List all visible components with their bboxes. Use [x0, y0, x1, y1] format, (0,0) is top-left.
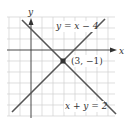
line-label-x-plus-y-equals-2: x + y = 2	[65, 101, 108, 111]
x-axis-label: x	[119, 46, 124, 56]
line-label-y-equals-x-minus-4: y = x − 4	[55, 21, 99, 31]
y-axis-label: y	[27, 7, 34, 17]
graph: x y (3, −1) y = x − 4 x + y = 2	[0, 0, 127, 127]
intersection-label: (3, −1)	[71, 56, 103, 66]
x-axis-arrow-icon	[110, 48, 117, 53]
y-axis-arrow-icon	[29, 18, 34, 25]
intersection-point	[61, 59, 66, 64]
